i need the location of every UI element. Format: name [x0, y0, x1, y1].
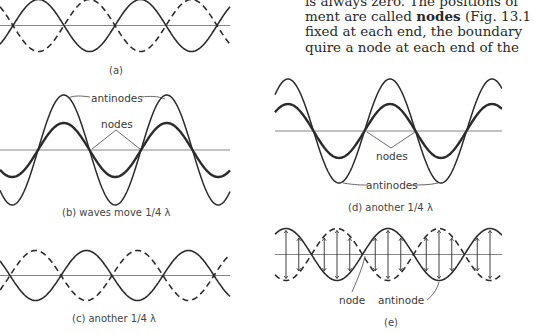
caption-c: (c) another 1/4 λ — [72, 314, 156, 324]
label-node-e: node — [339, 295, 365, 306]
node-pointer-left — [367, 132, 391, 148]
antinode-pointer — [427, 282, 439, 300]
label-nodes-d: nodes — [376, 151, 408, 162]
label-antinode-e: antinode — [378, 295, 424, 306]
panel-b — [0, 95, 230, 205]
panel-a — [0, 0, 230, 52]
antinode-pointer-left — [343, 183, 368, 185]
antinode-pointer-left — [68, 96, 90, 98]
node-pointer-left — [92, 130, 116, 149]
node-pointer-right — [116, 130, 140, 149]
caption-a: (a) — [109, 66, 123, 76]
panel-d — [275, 79, 502, 185]
label-antinodes-b: antinodes — [91, 93, 143, 104]
caption-b: (b) waves move 1/4 λ — [62, 208, 170, 218]
label-antinodes-d: antinodes — [366, 180, 418, 191]
panel-e — [275, 229, 502, 301]
node-pointer-right — [391, 132, 415, 148]
panel-c — [0, 251, 230, 301]
label-nodes-b: nodes — [101, 119, 133, 130]
caption-e: (e) — [384, 318, 398, 328]
caption-d: (d) another 1/4 λ — [348, 203, 433, 213]
